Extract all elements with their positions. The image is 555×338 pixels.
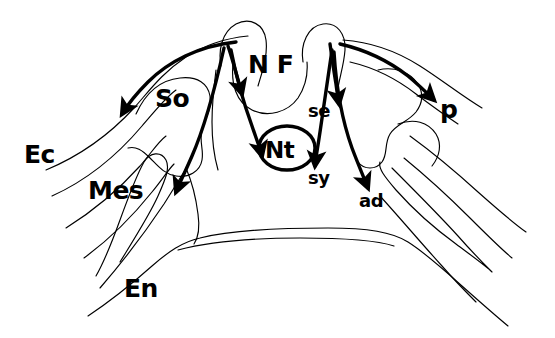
neural-fold-right (302, 24, 345, 88)
label-so: So (155, 84, 190, 113)
label-nt: Nt (265, 137, 295, 163)
label-en: En (124, 274, 158, 303)
label-p: p (440, 95, 457, 124)
label-mes: Mes (88, 176, 143, 205)
endoderm-inner (178, 238, 394, 250)
ectoderm-outline-left (46, 36, 248, 170)
diagram-canvas: Ec Mes En So N F Nt se sy ad p (0, 0, 555, 338)
mesoderm-stream-right-1 (410, 136, 526, 232)
label-sy: sy (308, 167, 330, 188)
label-ec: Ec (24, 140, 55, 169)
label-nf: N F (248, 50, 293, 79)
label-ad: ad (359, 190, 383, 211)
mesoderm-lobe-right (380, 162, 492, 272)
pronephros-pocket-right (398, 121, 439, 166)
lateral-plate-left (186, 168, 199, 244)
arrow-to-mes-left (176, 48, 224, 192)
label-se: se (308, 100, 330, 121)
somite-outline-right (358, 69, 422, 168)
neurulation-diagram-svg: Ec Mes En So N F Nt se sy ad p (0, 0, 555, 338)
arrow-to-p (340, 44, 434, 100)
arrow-to-ad (334, 52, 368, 188)
